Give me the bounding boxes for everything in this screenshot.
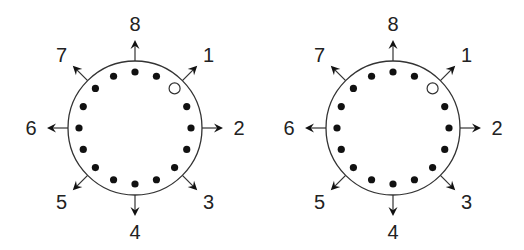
direction-label-1: 1 bbox=[461, 44, 472, 66]
filled-dot bbox=[92, 85, 99, 92]
filled-dot bbox=[110, 73, 117, 80]
arrow-5 bbox=[73, 175, 88, 190]
arrow-8 bbox=[389, 40, 398, 61]
filled-dot bbox=[187, 124, 194, 131]
filled-dot bbox=[441, 103, 448, 110]
diagram-right: 12345678 bbox=[283, 13, 502, 243]
filled-dot bbox=[338, 103, 345, 110]
direction-label-5: 5 bbox=[314, 191, 325, 213]
filled-dot bbox=[368, 73, 375, 80]
filled-dot bbox=[411, 73, 418, 80]
filled-dot bbox=[350, 85, 357, 92]
filled-dot bbox=[333, 124, 340, 131]
filled-dot bbox=[75, 124, 82, 131]
filled-dot bbox=[429, 164, 436, 171]
filled-dot bbox=[445, 124, 452, 131]
arrow-1 bbox=[440, 66, 455, 81]
arrow-2 bbox=[460, 124, 481, 133]
arrow-2 bbox=[202, 124, 223, 133]
arrow-1 bbox=[182, 66, 197, 81]
dot-ring bbox=[333, 68, 452, 187]
direction-label-3: 3 bbox=[203, 191, 214, 213]
direction-label-4: 4 bbox=[387, 221, 398, 243]
filled-dot bbox=[411, 176, 418, 183]
filled-dot bbox=[153, 176, 160, 183]
hollow-dot bbox=[169, 83, 180, 94]
outer-ring bbox=[68, 61, 202, 195]
direction-label-2: 2 bbox=[233, 117, 244, 139]
filled-dot bbox=[92, 164, 99, 171]
filled-dot bbox=[171, 164, 178, 171]
filled-dot bbox=[131, 68, 138, 75]
direction-label-6: 6 bbox=[283, 117, 294, 139]
filled-dot bbox=[183, 103, 190, 110]
direction-label-3: 3 bbox=[461, 191, 472, 213]
filled-dot bbox=[131, 180, 138, 187]
direction-label-7: 7 bbox=[56, 44, 67, 66]
arrow-4 bbox=[131, 195, 140, 216]
filled-dot bbox=[153, 73, 160, 80]
direction-label-1: 1 bbox=[203, 44, 214, 66]
dot-ring bbox=[75, 68, 194, 187]
hollow-dot bbox=[427, 83, 438, 94]
arrow-3 bbox=[440, 175, 455, 190]
filled-dot bbox=[389, 68, 396, 75]
direction-label-4: 4 bbox=[129, 221, 140, 243]
filled-dot bbox=[183, 146, 190, 153]
direction-label-7: 7 bbox=[314, 44, 325, 66]
filled-dot bbox=[389, 180, 396, 187]
direction-label-8: 8 bbox=[129, 13, 140, 35]
arrow-4 bbox=[389, 195, 398, 216]
outer-ring bbox=[326, 61, 460, 195]
filled-dot bbox=[80, 103, 87, 110]
arrow-6 bbox=[47, 124, 68, 133]
filled-dot bbox=[350, 164, 357, 171]
arrow-6 bbox=[305, 124, 326, 133]
diagram-left: 12345678 bbox=[25, 13, 244, 243]
filled-dot bbox=[110, 176, 117, 183]
direction-diagrams: 1234567812345678 bbox=[0, 0, 524, 250]
arrow-3 bbox=[182, 175, 197, 190]
filled-dot bbox=[368, 176, 375, 183]
direction-label-2: 2 bbox=[491, 117, 502, 139]
arrow-8 bbox=[131, 40, 140, 61]
diagram-stage: 1234567812345678 bbox=[0, 0, 524, 250]
direction-label-8: 8 bbox=[387, 13, 398, 35]
direction-label-6: 6 bbox=[25, 117, 36, 139]
arrow-5 bbox=[331, 175, 346, 190]
filled-dot bbox=[338, 146, 345, 153]
arrow-7 bbox=[331, 66, 346, 81]
filled-dot bbox=[441, 146, 448, 153]
direction-label-5: 5 bbox=[56, 191, 67, 213]
filled-dot bbox=[80, 146, 87, 153]
arrow-7 bbox=[73, 66, 88, 81]
